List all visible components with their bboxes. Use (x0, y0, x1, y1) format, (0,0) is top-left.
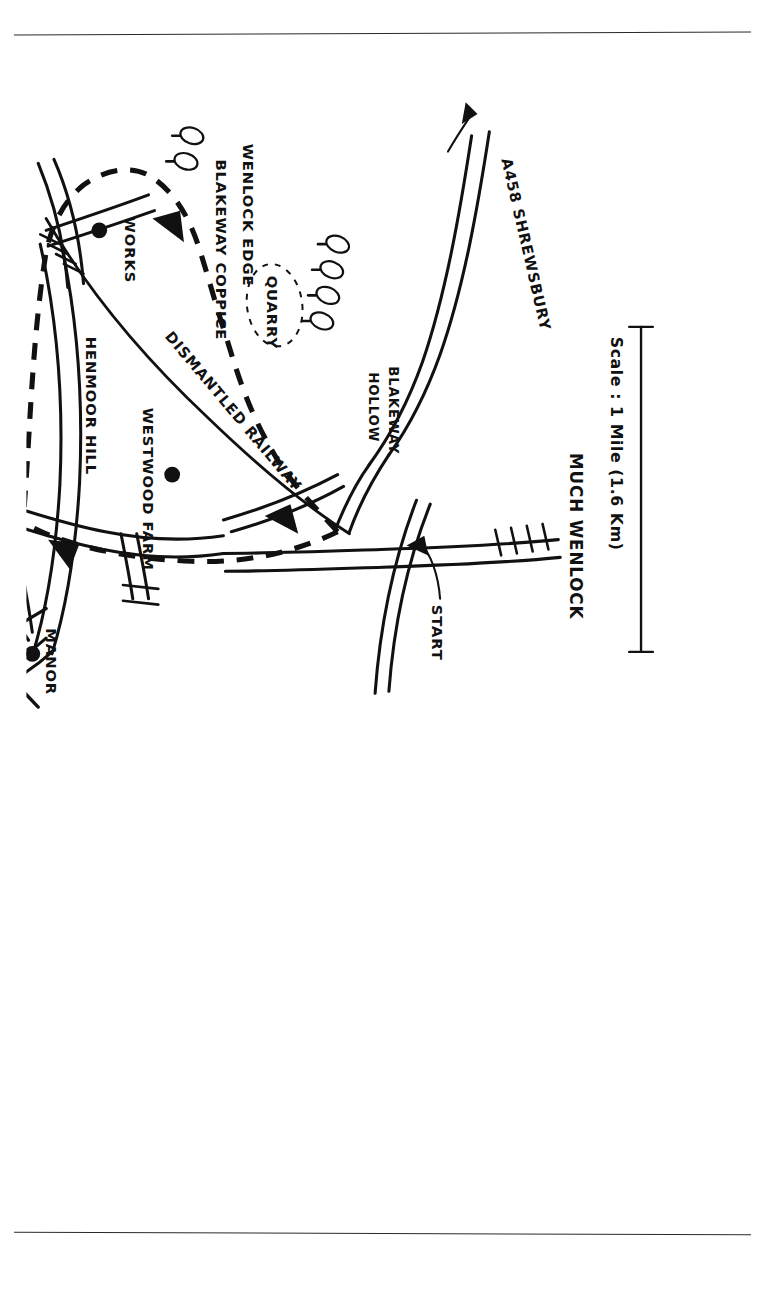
label-a458-shrewsbury: A458 SHREWSBURY (498, 156, 554, 332)
label-works: WORKS (121, 217, 138, 284)
label-westwood-farm: WESTWOOD FARM (139, 408, 156, 571)
scale-bar-label: Scale : 1 Mile (1.6 Km) (607, 337, 626, 551)
label-much-wenlock: MUCH WENLOCK (566, 453, 586, 620)
walking-route (26, 170, 337, 692)
road-much-wenlock-junction (223, 455, 560, 693)
road-valley-presthope-bourton (32, 238, 80, 656)
label-quarry: QUARRY (263, 276, 280, 349)
railway-hatch-much-wenlock (495, 524, 548, 556)
label-blakeway-hollow-line2: HOLLOW (366, 372, 381, 442)
page-rule-top (14, 31, 751, 35)
road-network (26, 132, 560, 693)
direction-arrow-west (152, 211, 184, 243)
building-dot-works (91, 222, 107, 238)
label-blakeway-coppice: BLAKEWAY COPPICE (212, 159, 229, 340)
scale-bar: Scale : 1 Mile (1.6 Km) (607, 327, 652, 652)
building-dot-westwood-farm (164, 467, 180, 483)
label-henmoor-hill: HENMOOR HILL (82, 337, 99, 475)
sketch-map: N Scale : 1 Mile (1.6 Km) MUCH WENLOCK A… (26, 41, 735, 1253)
building-dot-manor (26, 646, 40, 662)
railway-hatch-westwood (122, 585, 157, 605)
a458-direction-arrow (447, 102, 477, 151)
label-manor: MANOR (43, 628, 60, 695)
scanned-page: N Scale : 1 Mile (1.6 Km) MUCH WENLOCK A… (0, 0, 761, 1294)
label-wenlock-edge: WENLOCK EDGE (240, 144, 257, 287)
label-blakeway-hollow-line1: BLAKEWAY (385, 366, 400, 454)
label-start: START (429, 605, 446, 661)
